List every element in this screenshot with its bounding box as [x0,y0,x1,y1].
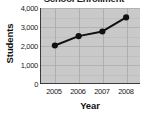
y-tick-label: 3,000 [13,23,38,32]
data-point-marker: 2007: 2750 [99,28,105,34]
y-tick-label: 4,000 [13,4,38,13]
x-axis-tick-labels: 2005200620072008 [40,87,140,99]
x-axis-title: Year [40,100,140,111]
series-line [55,17,126,45]
data-point-marker: 2006: 2500 [76,33,82,39]
line-chart-figure: School Enrollment Students 4,0003,0002,0… [0,0,146,116]
data-point-marker: 2008: 3500 [123,14,129,20]
chart-title: School Enrollment [28,0,140,4]
data-point-marker: 2005: 2000 [52,42,58,48]
x-tick-label: 2005 [46,87,62,96]
plot-area: 2005: 20002006: 25002007: 27502008: 3500 [40,8,140,84]
x-tick-label: 2008 [118,87,134,96]
y-axis-tick-labels: 4,0003,0002,0001,0000 [13,8,38,84]
x-tick-label: 2006 [70,87,86,96]
y-tick-label: 1,000 [13,61,38,70]
y-tick-label: 2,000 [13,42,38,51]
x-tick-label: 2007 [94,87,110,96]
y-tick-label: 0 [13,80,38,89]
data-series-line: 2005: 20002006: 25002007: 27502008: 3500 [41,8,140,83]
